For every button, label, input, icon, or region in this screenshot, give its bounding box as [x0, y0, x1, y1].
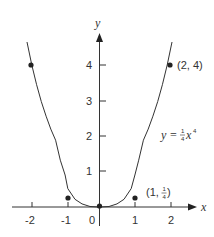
x-axis-label: x [200, 200, 207, 214]
svg-text:): ) [167, 186, 171, 198]
point-origin [97, 203, 102, 208]
point-1-quarter [132, 195, 137, 200]
x-tick-1: 1 [132, 214, 138, 226]
y-axis [96, 33, 106, 226]
annotation-1-quarter: (1, 1 4 ) [146, 186, 171, 200]
annotation-2-4: (2, 4) [177, 59, 203, 71]
y-axis-arrow-icon [96, 33, 103, 42]
svg-text:4: 4 [163, 194, 167, 200]
y-axis-label: y [94, 16, 101, 30]
x-tick-neg2: -2 [25, 214, 35, 226]
svg-text:4: 4 [193, 128, 197, 134]
svg-text:1: 1 [163, 186, 167, 192]
y-tick-1: 1 [86, 165, 92, 177]
svg-text:x: x [185, 128, 192, 142]
point-neg1-quarter [65, 195, 70, 200]
y-tick-4: 4 [86, 59, 92, 71]
x-tick-neg1: -1 [61, 214, 71, 226]
svg-text:4: 4 [181, 136, 185, 142]
x-tick-2: 2 [168, 214, 174, 226]
y-tick-3: 3 [86, 95, 92, 107]
svg-text:(1,: (1, [146, 186, 159, 198]
x-axis-arrow-icon [188, 204, 197, 211]
point-2-4 [167, 62, 172, 67]
y-tick-2: 2 [86, 130, 92, 142]
svg-text:y =: y = [160, 128, 177, 142]
equation-label: y = 1 4 x 4 [160, 128, 197, 142]
point-neg2-4 [28, 62, 33, 67]
x-tick-0: 0 [89, 214, 95, 226]
graph: y x 4 3 2 1 -2 -1 0 1 2 (2, 4) (1, 1 4 )… [0, 0, 214, 237]
svg-text:1: 1 [181, 128, 185, 134]
